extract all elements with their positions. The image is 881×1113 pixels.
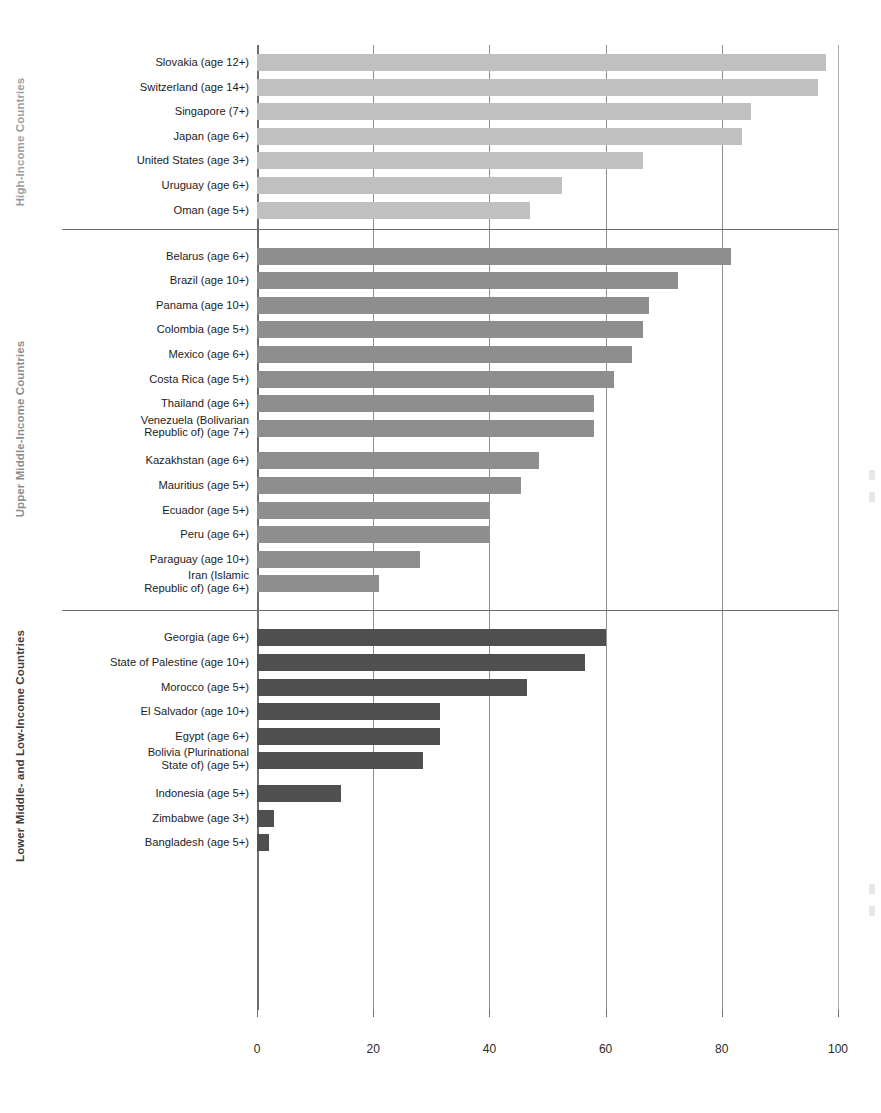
bar-row: Indonesia (age 5+)	[257, 785, 838, 802]
bar	[257, 452, 539, 469]
bar	[257, 79, 818, 96]
bar-row: Uruguay (age 6+)	[257, 177, 838, 194]
category-label: Morocco (age 5+)	[67, 681, 257, 694]
x-tick-80	[722, 1010, 723, 1017]
bar-row: Mexico (age 6+)	[257, 346, 838, 363]
bar	[257, 502, 489, 519]
x-tick-label-0: 0	[254, 1042, 261, 1056]
category-label: Indonesia (age 5+)	[67, 787, 257, 800]
bar-row: Belarus (age 6+)	[257, 248, 838, 265]
bar-row: United States (age 3+)	[257, 152, 838, 169]
category-label: Venezuela (Bolivarian Republic of) (age …	[67, 414, 257, 439]
scan-artifact-mark	[869, 906, 875, 916]
category-label: State of Palestine (age 10+)	[67, 656, 257, 669]
group-label-lower-middle-low-income: Lower Middle- and Low-Income Countries	[0, 620, 40, 871]
bar-row: Switzerland (age 14+)	[257, 79, 838, 96]
x-tick-label-60: 60	[599, 1042, 612, 1056]
bar	[257, 177, 562, 194]
bar	[257, 477, 521, 494]
scan-artifact-mark	[869, 470, 875, 480]
bar	[257, 103, 751, 120]
bar	[257, 152, 643, 169]
bar-row: State of Palestine (age 10+)	[257, 654, 838, 671]
x-tick-40	[489, 1010, 490, 1017]
category-label: Japan (age 6+)	[67, 130, 257, 143]
x-tick-100	[838, 1010, 839, 1017]
group-label-upper-middle-income-text: Upper Middle-Income Countries	[14, 341, 26, 518]
x-tick-0	[257, 1010, 258, 1017]
scan-artifact-mark	[869, 492, 875, 502]
bar	[257, 703, 440, 720]
category-label: Switzerland (age 14+)	[67, 81, 257, 94]
bar	[257, 297, 649, 314]
category-label: Mauritius (age 5+)	[67, 479, 257, 492]
bar-row: Peru (age 6+)	[257, 526, 838, 543]
bar	[257, 346, 632, 363]
category-label: Bolivia (Plurinational State of) (age 5+…	[67, 746, 257, 771]
scan-artifact-mark	[869, 884, 875, 894]
category-label: Iran (Islamic Republic of) (age 6+)	[67, 569, 257, 594]
category-label: Georgia (age 6+)	[67, 631, 257, 644]
bar-row: Japan (age 6+)	[257, 128, 838, 145]
category-label: Bangladesh (age 5+)	[67, 836, 257, 849]
figure-caption	[60, 1088, 860, 1104]
bar-row: Iran (Islamic Republic of) (age 6+)	[257, 575, 838, 592]
section-separator	[62, 610, 838, 611]
x-tick-20	[373, 1010, 374, 1017]
bar-row: Singapore (7+)	[257, 103, 838, 120]
plot-area: Slovakia (age 12+)Switzerland (age 14+)S…	[257, 45, 838, 1010]
bar	[257, 272, 678, 289]
category-label: Zimbabwe (age 3+)	[67, 812, 257, 825]
bar	[257, 202, 530, 219]
bar-row: Thailand (age 6+)	[257, 395, 838, 412]
bar-row: Costa Rica (age 5+)	[257, 371, 838, 388]
category-label: Egypt (age 6+)	[67, 730, 257, 743]
bar-row: Slovakia (age 12+)	[257, 54, 838, 71]
x-axis-ticks	[257, 1010, 838, 1018]
x-axis-tick-labels: 020406080100	[257, 1042, 838, 1060]
bar-row: Kazakhstan (age 6+)	[257, 452, 838, 469]
category-label: Belarus (age 6+)	[67, 250, 257, 263]
category-label: Oman (age 5+)	[67, 204, 257, 217]
bar-row: El Salvador (age 10+)	[257, 703, 838, 720]
bar-row: Morocco (age 5+)	[257, 679, 838, 696]
bar-row: Bolivia (Plurinational State of) (age 5+…	[257, 752, 838, 769]
group-label-lower-middle-low-income-text: Lower Middle- and Low-Income Countries	[14, 630, 26, 862]
bar-row: Oman (age 5+)	[257, 202, 838, 219]
bar-row: Georgia (age 6+)	[257, 629, 838, 646]
category-label: Paraguay (age 10+)	[67, 553, 257, 566]
bar	[257, 371, 614, 388]
bar-row: Ecuador (age 5+)	[257, 502, 838, 519]
category-label: Colombia (age 5+)	[67, 323, 257, 336]
category-label: Ecuador (age 5+)	[67, 504, 257, 517]
bar	[257, 654, 585, 671]
bar	[257, 834, 269, 851]
category-label: Panama (age 10+)	[67, 299, 257, 312]
group-label-high-income: High-Income Countries	[0, 45, 40, 239]
bar	[257, 248, 731, 265]
x-tick-60	[606, 1010, 607, 1017]
category-label: El Salvador (age 10+)	[67, 705, 257, 718]
bar	[257, 526, 489, 543]
bar	[257, 785, 341, 802]
bar-row: Colombia (age 5+)	[257, 321, 838, 338]
gridline-100	[838, 45, 839, 1010]
bar	[257, 321, 643, 338]
chart-figure: High-Income Countries Upper Middle-Incom…	[0, 0, 881, 1113]
bar	[257, 395, 594, 412]
bar	[257, 728, 440, 745]
category-label: Uruguay (age 6+)	[67, 179, 257, 192]
bar-row: Paraguay (age 10+)	[257, 551, 838, 568]
x-tick-label-20: 20	[367, 1042, 380, 1056]
bar	[257, 575, 379, 592]
category-label: Brazil (age 10+)	[67, 274, 257, 287]
category-label: Mexico (age 6+)	[67, 348, 257, 361]
bar	[257, 551, 420, 568]
bar	[257, 420, 594, 437]
bar	[257, 629, 606, 646]
bar-row: Bangladesh (age 5+)	[257, 834, 838, 851]
bar-row: Brazil (age 10+)	[257, 272, 838, 289]
category-label: Slovakia (age 12+)	[67, 56, 257, 69]
section-separator	[62, 229, 838, 230]
bar-row: Zimbabwe (age 3+)	[257, 810, 838, 827]
